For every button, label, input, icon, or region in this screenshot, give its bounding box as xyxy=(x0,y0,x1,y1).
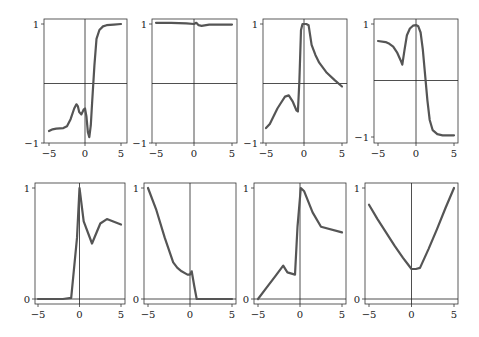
subplot-1: −505−11 xyxy=(24,19,127,160)
x-tick-label: −5 xyxy=(149,148,164,159)
y-tick-label: −1 xyxy=(243,138,258,149)
x-tick-label: 0 xyxy=(297,309,303,320)
x-tick-label: 0 xyxy=(191,148,197,159)
x-tick-label: 5 xyxy=(451,148,457,159)
y-tick-label: 1 xyxy=(363,19,369,30)
x-tick-label: −5 xyxy=(362,309,377,320)
axes-frame xyxy=(152,19,237,143)
x-tick-label: 5 xyxy=(118,148,124,159)
x-tick-label: 5 xyxy=(339,148,345,159)
subplot-8: −50501 xyxy=(354,183,458,321)
y-tick-label: 0 xyxy=(354,294,360,305)
y-tick-label: 1 xyxy=(354,183,360,194)
x-tick-label: 0 xyxy=(82,148,88,159)
x-tick-label: 5 xyxy=(229,148,235,159)
axes-frame xyxy=(44,19,127,143)
y-tick-label: −1 xyxy=(354,132,369,143)
y-tick-label: 0 xyxy=(133,294,139,305)
y-tick-label: 1 xyxy=(33,19,39,30)
axes-frame xyxy=(35,183,125,304)
x-tick-label: 0 xyxy=(76,309,82,320)
x-tick-label: 5 xyxy=(451,309,457,320)
y-tick-label: 1 xyxy=(252,19,258,30)
x-tick-label: −5 xyxy=(42,148,57,159)
subplot-6: −50501 xyxy=(133,183,236,321)
y-tick-label: 0 xyxy=(243,294,249,305)
y-tick-label: 1 xyxy=(24,183,30,194)
x-tick-label: −5 xyxy=(251,309,266,320)
x-tick-label: 0 xyxy=(408,309,414,320)
x-tick-label: −5 xyxy=(371,148,386,159)
subplot-4: −505−11 xyxy=(354,19,458,160)
subplot-2: −505−11 xyxy=(132,19,237,160)
x-tick-label: 5 xyxy=(229,309,235,320)
subplot-3: −505−11 xyxy=(243,19,347,160)
subplot-7: −50501 xyxy=(243,183,346,321)
y-tick-label: 1 xyxy=(141,19,147,30)
x-tick-label: 5 xyxy=(118,309,124,320)
subplot-5: −50501 xyxy=(24,183,125,321)
x-tick-label: −5 xyxy=(259,148,274,159)
y-tick-label: 1 xyxy=(133,183,139,194)
x-tick-label: 5 xyxy=(339,309,345,320)
x-tick-label: 0 xyxy=(301,148,307,159)
x-tick-label: 0 xyxy=(413,148,419,159)
figure-grid: −505−11−505−11−505−11−505−11−50501−50501… xyxy=(0,0,479,337)
x-tick-label: 0 xyxy=(187,309,193,320)
x-tick-label: −5 xyxy=(141,309,156,320)
y-tick-label: −1 xyxy=(132,138,147,149)
y-tick-label: 0 xyxy=(24,294,30,305)
y-tick-label: 1 xyxy=(243,183,249,194)
x-tick-label: −5 xyxy=(31,309,46,320)
y-tick-label: −1 xyxy=(24,138,39,149)
